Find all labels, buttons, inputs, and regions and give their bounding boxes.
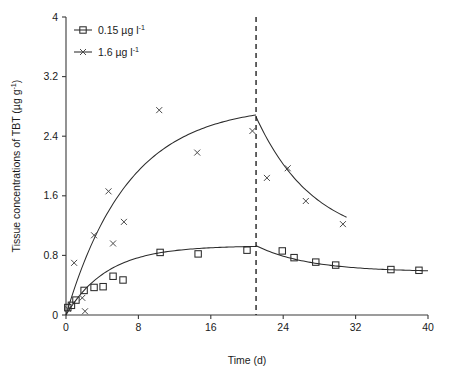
y-axis-title: Tissue concentrations of TBT (µg g-1) bbox=[9, 80, 22, 253]
y-tick-label: 4 bbox=[52, 11, 58, 23]
legend-label-0[interactable]: 0.15 µg l-1 bbox=[98, 23, 145, 36]
x-tick-label: 32 bbox=[350, 321, 362, 333]
x-tick-label: 40 bbox=[422, 321, 434, 333]
chart-figure: 00.81.62.43.240816243240 0.15 µg l-11.6 … bbox=[0, 0, 471, 384]
y-tick-label: 2.4 bbox=[43, 130, 58, 142]
y-tick-label: 0.8 bbox=[43, 249, 58, 261]
x-tick-label: 24 bbox=[277, 321, 289, 333]
x-tick-label: 8 bbox=[135, 321, 141, 333]
y-tick-label: 0 bbox=[52, 309, 58, 321]
tbt-uptake-depuration-chart: 00.81.62.43.240816243240 0.15 µg l-11.6 … bbox=[0, 0, 471, 384]
chart-background bbox=[0, 0, 471, 384]
x-axis-title: Time (d) bbox=[228, 354, 267, 366]
y-tick-label: 3.2 bbox=[43, 70, 58, 82]
x-tick-label: 16 bbox=[205, 321, 217, 333]
x-tick-label: 0 bbox=[63, 321, 69, 333]
y-tick-label: 1.6 bbox=[43, 189, 58, 201]
